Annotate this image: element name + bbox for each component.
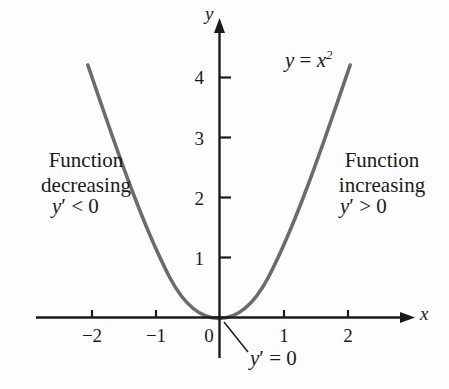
y-axis-arrowhead (214, 18, 225, 33)
y-axis-label: y (205, 4, 213, 23)
y-tick-label-4: 4 (182, 68, 204, 87)
annotation-function-decreasing: Function decreasing (16, 148, 156, 198)
deriv-zero-var: y (250, 346, 259, 370)
annotation-left-line-1: Function (16, 148, 156, 173)
deriv-neg-operator: < (71, 194, 83, 218)
y-tick-label-2: 2 (182, 189, 204, 208)
x-axis-arrowhead (400, 312, 415, 323)
annotation-function-increasing: Function increasing (320, 148, 444, 198)
leader-line-derivative-zero (224, 322, 248, 352)
y-tick-label-3: 3 (182, 129, 204, 148)
derivative-positive-label: y′ > 0 (340, 196, 387, 217)
math-figure: y x 1 2 3 4 −2 −1 0 1 2 y = x2 Function … (0, 0, 449, 389)
deriv-neg-var: y (52, 194, 61, 218)
deriv-zero-prime: ′ (259, 346, 264, 370)
x-tick-label-minus-2: −2 (75, 326, 109, 345)
equation-equals: = (300, 48, 312, 72)
derivative-zero-label: y′ = 0 (250, 348, 297, 369)
equation-lhs: y (285, 48, 294, 72)
deriv-zero-value: 0 (286, 346, 297, 370)
y-axis-ticks (219, 78, 231, 258)
deriv-pos-var: y (340, 194, 349, 218)
annotation-right-line-1: Function (320, 148, 444, 173)
deriv-neg-value: 0 (88, 194, 99, 218)
x-tick-label-minus-1: −1 (139, 326, 173, 345)
x-tick-label-2: 2 (331, 326, 365, 345)
deriv-pos-value: 0 (376, 194, 387, 218)
deriv-neg-prime: ′ (61, 194, 66, 218)
deriv-pos-operator: > (359, 194, 371, 218)
x-tick-label-zero: 0 (192, 326, 226, 345)
x-tick-label-1: 1 (267, 326, 301, 345)
deriv-pos-prime: ′ (349, 194, 354, 218)
equation-exponent: 2 (326, 47, 333, 62)
equation-base: x (317, 48, 326, 72)
curve-equation-label: y = x2 (285, 48, 333, 71)
deriv-zero-operator: = (269, 346, 281, 370)
y-tick-label-1: 1 (182, 249, 204, 268)
x-axis-label: x (420, 304, 428, 323)
derivative-negative-label: y′ < 0 (52, 196, 99, 217)
